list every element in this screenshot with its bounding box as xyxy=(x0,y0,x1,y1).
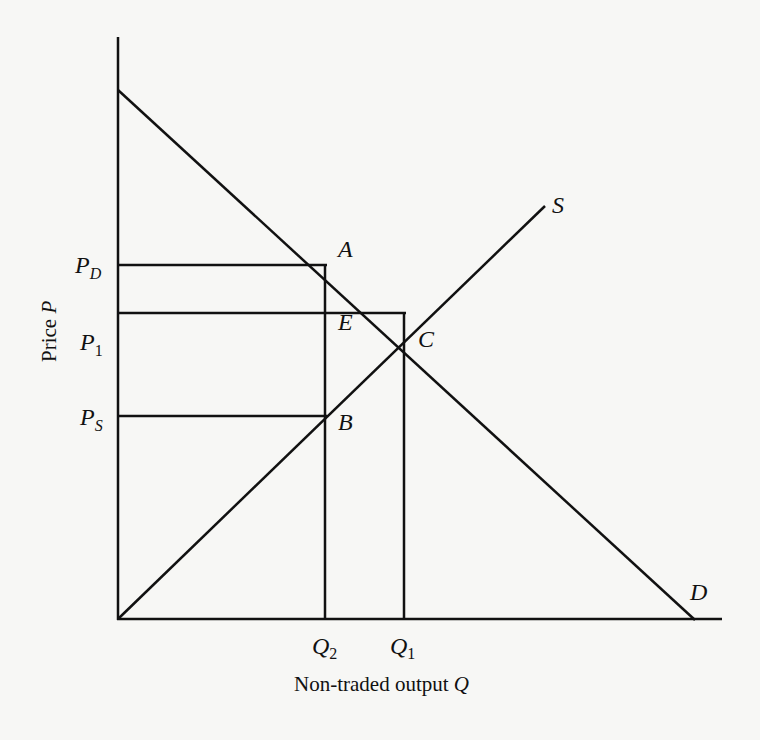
q1-tick-label: Q xyxy=(390,633,407,659)
svg-text:P1: P1 xyxy=(79,329,103,359)
point-e-label: E xyxy=(337,309,353,335)
x-axis-label: Non-traded output xyxy=(294,672,454,696)
supply-curve xyxy=(118,206,545,619)
svg-text:PS: PS xyxy=(79,404,103,434)
p1-tick-label: P xyxy=(79,329,95,355)
price-quantity-diagram: S D A E C B PD P1 PS Q2 Q1 Non-traded ou… xyxy=(0,0,760,740)
svg-text:E: E xyxy=(337,309,353,335)
y-axis-label: Price xyxy=(37,314,61,362)
svg-text:D: D xyxy=(689,579,707,605)
demand-curve xyxy=(118,90,695,620)
q2-tick-label: Q xyxy=(312,633,329,659)
pd-tick-label: P xyxy=(74,252,90,278)
svg-text:Price P: Price P xyxy=(37,301,61,362)
supply-label: S xyxy=(552,192,564,218)
ps-tick-label: P xyxy=(79,404,95,430)
svg-text:Q2: Q2 xyxy=(312,633,337,662)
point-b-label: B xyxy=(338,409,353,435)
svg-text:Non-traded output Q: Non-traded output Q xyxy=(294,672,469,696)
point-a-label: A xyxy=(336,236,353,262)
demand-label: D xyxy=(689,579,707,605)
svg-text:A: A xyxy=(336,236,353,262)
svg-text:Q1: Q1 xyxy=(390,633,415,662)
svg-text:B: B xyxy=(338,409,353,435)
svg-text:PD: PD xyxy=(74,252,102,282)
svg-text:C: C xyxy=(418,326,435,352)
point-c-label: C xyxy=(418,326,435,352)
svg-text:S: S xyxy=(552,192,564,218)
